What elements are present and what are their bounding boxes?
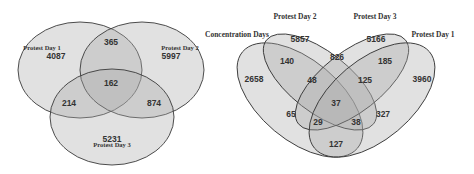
region-d2-d3: 826 [330, 52, 344, 62]
region-d3-only: 5166 [367, 34, 386, 44]
region-cd-d3-d1: 29 [313, 117, 323, 127]
venn-four-set: Concentration Days Protest Day 2 Protest… [205, 12, 455, 174]
region-d1-d3: 214 [62, 98, 76, 108]
region-d1-d2-d3: 162 [104, 78, 118, 88]
region-d3-only: 5231 [103, 134, 122, 144]
label-protest-day-2: Protest Day 2 [161, 44, 198, 51]
label-concentration-days: Concentration Days [205, 30, 269, 39]
label-protest-day-1: Protest Day 1 [23, 44, 60, 51]
region-cd-d2: 140 [280, 56, 294, 66]
venn-figure: Protest Day 1 Protest Day 2 Protest Day … [0, 0, 474, 174]
region-d2-only: 5857 [291, 34, 310, 44]
region-d1-only: 3960 [413, 74, 432, 84]
region-d1-d2: 365 [104, 37, 118, 47]
region-d3-d1: 185 [378, 56, 392, 66]
region-cd-d2-d1: 38 [351, 117, 361, 127]
region-d2-d3-d1: 125 [358, 75, 372, 85]
label-protest-day-2: Protest Day 2 [273, 12, 316, 21]
venn-three-set: Protest Day 1 Protest Day 2 Protest Day … [18, 22, 204, 165]
region-cd-d2-d3: 48 [307, 75, 317, 85]
region-cd-only: 2658 [245, 74, 264, 84]
region-all-four: 37 [331, 98, 341, 108]
region-cd-d3: 65 [286, 109, 296, 119]
region-d2-d1: 327 [376, 109, 390, 119]
region-d2-only: 5997 [162, 51, 181, 61]
region-cd-d1: 127 [329, 139, 343, 149]
label-protest-day-1: Protest Day 1 [411, 30, 454, 39]
region-d2-d3: 874 [147, 98, 161, 108]
label-protest-day-3: Protest Day 3 [353, 12, 396, 21]
region-d1-only: 4087 [47, 51, 66, 61]
